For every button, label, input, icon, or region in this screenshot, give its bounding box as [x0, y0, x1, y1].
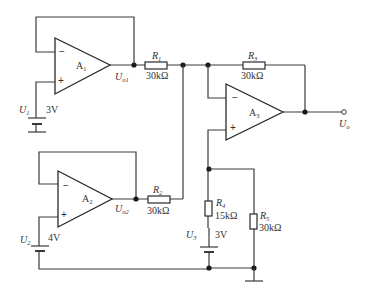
- u2-label: U2: [20, 234, 31, 246]
- a3-minus-sign: −: [232, 92, 238, 103]
- r5-value: 30kΩ: [259, 222, 281, 233]
- r3-label: R3: [247, 50, 258, 62]
- a1-output-node: [131, 62, 136, 67]
- r5-label: R5: [259, 210, 270, 222]
- a2-output-node: [133, 196, 138, 201]
- opamp-a1-stage: − + A1 Uo1 U1 3V: [19, 17, 150, 132]
- u2-value: 4V: [48, 232, 61, 243]
- a2-plus-sign: +: [61, 209, 67, 220]
- r4-label: R4: [215, 197, 226, 209]
- r1-label: R1: [151, 50, 161, 62]
- u3-label: U3: [186, 229, 197, 241]
- a2-minus-sign: −: [63, 180, 69, 191]
- a3-plus-network: R4 15kΩ U3 3V R5 30kΩ: [186, 166, 281, 281]
- r3-value: 30kΩ: [241, 70, 263, 81]
- u3-value: 3V: [215, 229, 228, 240]
- r4-body: [205, 201, 212, 216]
- r1-body: [145, 62, 167, 69]
- uo-label: Uo: [339, 118, 350, 130]
- opamp-a3-stage: − + A3 Uo: [208, 65, 350, 228]
- resistor-r3: R3 30kΩ: [241, 50, 265, 81]
- uo1-label: Uo1: [115, 71, 129, 83]
- r5-body: [250, 214, 257, 229]
- u2-return-wire: [39, 251, 208, 269]
- u1-value: 3V: [46, 104, 59, 115]
- r2-label: R2: [152, 184, 163, 196]
- circuit-diagram: − + A1 Uo1 U1 3V R1 30kΩ R3 30kΩ − + A3: [0, 0, 365, 297]
- a3-plus-sign: +: [230, 122, 236, 133]
- opamp-a2-stage: − + A2 Uo2 U2 4V: [20, 152, 208, 269]
- a1-plus-sign: +: [58, 75, 64, 86]
- resistor-r1: R1 30kΩ: [145, 50, 168, 81]
- r3-body: [243, 62, 265, 69]
- r4-value: 15kΩ: [215, 210, 237, 221]
- a3-minus-wire: [208, 65, 226, 98]
- uo-terminal: [342, 110, 347, 115]
- u3-bottom-node: [206, 265, 211, 270]
- a1-minus-sign: −: [59, 46, 65, 57]
- uo2-label: Uo2: [115, 203, 129, 215]
- a3-output-node: [302, 109, 307, 114]
- r2-value: 30kΩ: [147, 205, 169, 216]
- resistor-r2: R2 30kΩ: [147, 184, 183, 216]
- u1-label: U1: [19, 104, 29, 116]
- r2-body: [148, 196, 170, 203]
- r1-value: 30kΩ: [146, 70, 168, 81]
